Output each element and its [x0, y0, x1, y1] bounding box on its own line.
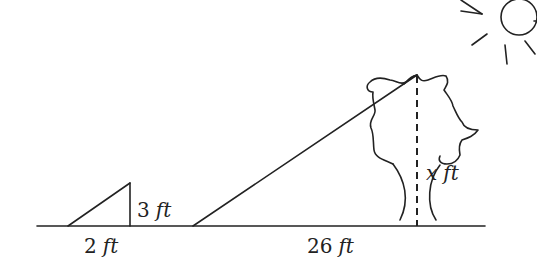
tree-height-label: xft	[426, 161, 460, 185]
small-height-label: 3ft	[137, 198, 172, 222]
small-triangle	[68, 183, 130, 226]
sun-ray-down	[505, 45, 507, 64]
tree-canopy	[367, 75, 478, 164]
sun-ray-lower-left	[472, 34, 487, 45]
shadow-diagram: 3ft 2ft xft 26ft	[0, 0, 537, 266]
sun-disc	[501, 0, 537, 35]
sun-icon	[461, 0, 537, 64]
large-base-label: 26ft	[307, 234, 355, 258]
tree-trunk-left	[393, 164, 405, 220]
sun-ray-lower-right	[525, 41, 535, 54]
small-triangle-hypotenuse	[68, 183, 130, 226]
small-base-label: 2ft	[84, 234, 119, 258]
large-triangle-hypotenuse	[193, 75, 417, 226]
